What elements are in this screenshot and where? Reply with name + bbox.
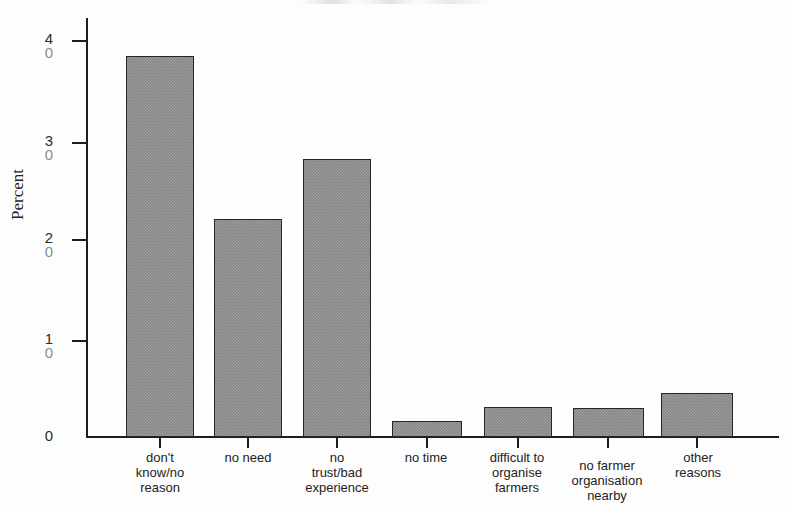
x-tick-5 (517, 438, 519, 448)
x-label-line: nearby (548, 488, 666, 503)
x-label-line: no time (376, 450, 476, 465)
y-tick-label-20-digit-2: 0 (36, 245, 62, 259)
x-tick-2 (247, 438, 249, 448)
bar-no-trust-bad-experience (303, 159, 371, 437)
y-tick-label-0: 0 (36, 429, 62, 443)
bar-difficult-to-organise-farmers (484, 407, 552, 437)
x-label-line: experience (278, 480, 396, 495)
y-tick-label-40: 4 0 (36, 32, 62, 60)
x-label-no-time: no time (376, 450, 476, 465)
y-tick-label-40-digit-2: 0 (36, 46, 62, 60)
bar-other-reasons (661, 393, 733, 437)
y-axis-line (86, 18, 88, 438)
y-tick-label-30: 3 0 (36, 134, 62, 162)
y-tick-label-0-digit-1: 0 (36, 429, 62, 443)
cropped-title-residue (300, 0, 490, 4)
bar-chart: Percent 4 0 3 0 2 0 1 0 0 don't know/no … (0, 0, 791, 512)
y-tick-30 (72, 142, 87, 144)
y-tick-20 (72, 239, 87, 241)
x-label-line: know/no (104, 465, 216, 480)
x-label-line: reason (104, 480, 216, 495)
x-label-other-reasons: other reasons (648, 450, 748, 480)
x-label-line: reasons (648, 465, 748, 480)
y-tick-label-20: 2 0 (36, 231, 62, 259)
y-tick-label-10: 1 0 (36, 332, 62, 360)
x-tick-4 (426, 438, 428, 448)
x-tick-1 (159, 438, 161, 448)
y-tick-10 (72, 340, 87, 342)
bar-no-need (214, 219, 282, 437)
x-tick-6 (607, 438, 609, 448)
y-axis-title: Percent (8, 196, 28, 220)
x-tick-3 (336, 438, 338, 448)
y-tick-label-10-digit-2: 0 (36, 346, 62, 360)
x-label-line: other (648, 450, 748, 465)
x-tick-7 (696, 438, 698, 448)
x-label-line: trust/bad (278, 465, 396, 480)
bar-no-time (392, 421, 462, 437)
bar-no-farmer-organisation-nearby (573, 408, 644, 437)
y-tick-40 (72, 40, 87, 42)
bar-dont-know-no-reason (126, 56, 194, 437)
y-tick-label-30-digit-2: 0 (36, 148, 62, 162)
